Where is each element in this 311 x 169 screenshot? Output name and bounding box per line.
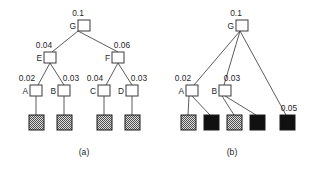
leaf-b-1[interactable] bbox=[181, 115, 196, 130]
node-a-D-prob: 0.03 bbox=[131, 73, 148, 83]
node-a-G-box[interactable] bbox=[78, 20, 90, 31]
node-b-G-box[interactable] bbox=[236, 20, 248, 31]
panel-b: 0.1 G 0.02 A 0.03 B 0.05 (b) bbox=[175, 8, 298, 157]
edge-G-E bbox=[52, 31, 78, 52]
edge-b-B-leaf4 bbox=[225, 96, 256, 115]
node-a-E-box[interactable] bbox=[44, 52, 56, 63]
node-b-B-box[interactable] bbox=[219, 85, 231, 96]
node-b-B-prob: 0.03 bbox=[224, 73, 241, 83]
node-a-A-box[interactable] bbox=[30, 85, 42, 96]
node-a-A-prob: 0.02 bbox=[19, 73, 36, 83]
node-a-B-prob: 0.03 bbox=[63, 73, 80, 83]
node-a-F[interactable]: 0.06 F bbox=[105, 40, 131, 63]
node-a-E-prob: 0.04 bbox=[36, 40, 53, 50]
node-a-F-label: F bbox=[105, 53, 110, 63]
edge-F-C bbox=[106, 63, 118, 85]
node-a-B[interactable]: 0.03 B bbox=[50, 73, 79, 96]
node-a-E-label: E bbox=[36, 53, 42, 63]
node-b-G[interactable]: 0.1 G bbox=[227, 8, 248, 31]
node-a-B-label: B bbox=[50, 86, 56, 96]
panel-a: 0.1 G 0.04 E 0.06 F 0.02 A bbox=[19, 8, 148, 157]
node-a-C-box[interactable] bbox=[98, 85, 110, 96]
node-a-B-box[interactable] bbox=[58, 85, 70, 96]
node-b-A[interactable]: 0.02 A bbox=[175, 73, 198, 96]
node-b-A-prob: 0.02 bbox=[175, 73, 192, 83]
edge-E-A bbox=[38, 63, 50, 85]
figure-root: 0.1 G 0.04 E 0.06 F 0.02 A bbox=[0, 0, 311, 169]
leaf-a-2[interactable] bbox=[57, 115, 72, 130]
node-b-G-label: G bbox=[227, 21, 234, 31]
node-a-D[interactable]: 0.03 D bbox=[118, 73, 148, 96]
node-a-C[interactable]: 0.04 C bbox=[87, 73, 110, 96]
leaf-b-5[interactable] bbox=[280, 115, 295, 130]
node-b-B-label: B bbox=[211, 86, 217, 96]
leaf-b-5-prob: 0.05 bbox=[281, 103, 298, 113]
caption-a: (a) bbox=[79, 147, 90, 157]
node-a-C-prob: 0.04 bbox=[87, 73, 104, 83]
tree-diagram-svg: 0.1 G 0.04 E 0.06 F 0.02 A bbox=[0, 0, 311, 169]
node-a-F-prob: 0.06 bbox=[114, 40, 131, 50]
node-a-A[interactable]: 0.02 A bbox=[19, 73, 42, 96]
edge-G-F bbox=[78, 31, 118, 52]
leaf-a-4[interactable] bbox=[125, 115, 140, 130]
node-a-G-label: G bbox=[69, 21, 76, 31]
node-b-G-prob: 0.1 bbox=[230, 8, 242, 18]
edge-b-G-leaf5 bbox=[240, 31, 286, 115]
leaf-b-4[interactable] bbox=[250, 115, 265, 130]
node-a-C-label: C bbox=[90, 86, 96, 96]
edge-b-A-leaf1 bbox=[188, 96, 189, 115]
node-a-E[interactable]: 0.04 E bbox=[36, 40, 56, 63]
edge-b-B-leaf3 bbox=[222, 96, 234, 115]
node-a-G-prob: 0.1 bbox=[72, 8, 84, 18]
leaf-a-3[interactable] bbox=[97, 115, 112, 130]
node-a-A-label: A bbox=[22, 86, 28, 96]
node-b-A-label: A bbox=[178, 86, 184, 96]
leaf-b-3[interactable] bbox=[227, 115, 242, 130]
caption-b: (b) bbox=[227, 147, 238, 157]
node-a-G[interactable]: 0.1 G bbox=[69, 8, 90, 31]
edge-b-A-leaf2 bbox=[192, 96, 210, 115]
node-a-D-label: D bbox=[118, 86, 124, 96]
leaf-a-1[interactable] bbox=[29, 115, 44, 130]
leaf-b-2[interactable] bbox=[204, 115, 219, 130]
node-b-A-box[interactable] bbox=[186, 85, 198, 96]
node-a-F-box[interactable] bbox=[112, 52, 124, 63]
node-b-B[interactable]: 0.03 B bbox=[211, 73, 240, 96]
node-a-D-box[interactable] bbox=[126, 85, 138, 96]
